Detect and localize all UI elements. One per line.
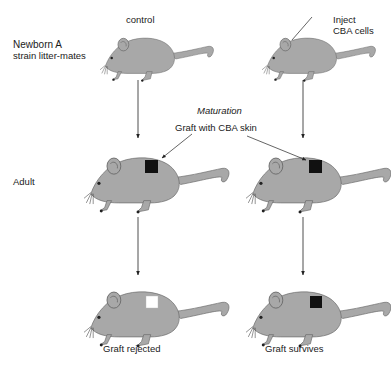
column-header-control: control	[126, 14, 155, 25]
graft-patch-rejected	[146, 296, 158, 308]
graft-patch-left	[145, 160, 158, 173]
mouse-outcome-rejected	[84, 292, 229, 348]
row-label-adult: Adult	[13, 176, 35, 187]
row-label-newborn: Newborn A	[13, 39, 62, 50]
row-label-newborn-line2: strain litter-mates	[13, 50, 86, 61]
inject-pointer	[292, 17, 312, 40]
mouse-newborn-control	[100, 38, 213, 82]
mouse-outcome-survived	[246, 292, 391, 348]
mouse-newborn-injected	[262, 38, 375, 82]
outcome-rejected-label: Graft rejected	[103, 343, 161, 354]
graft-action-label: Graft with CBA skin	[175, 122, 257, 133]
graft-pointer-left	[162, 134, 192, 158]
mouse-adult-control	[84, 158, 229, 214]
mouse-adult-injected	[246, 158, 391, 214]
column-header-inject-line2: CBA cells	[333, 25, 374, 36]
maturation-label: Maturation	[197, 105, 242, 116]
column-header-inject: Inject	[333, 14, 356, 25]
graft-patch-survived	[310, 296, 322, 308]
graft-patch-right	[309, 160, 322, 173]
graft-pointer-right	[247, 136, 306, 160]
outcome-survives-label: Graft survives	[265, 343, 324, 354]
